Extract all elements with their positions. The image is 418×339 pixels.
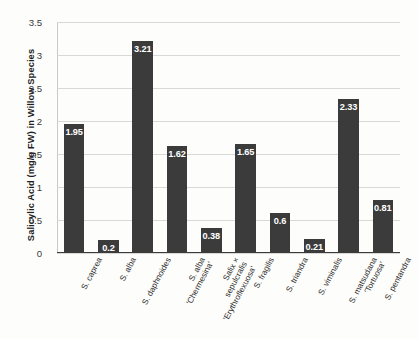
plot-area: 1.950.23.211.620.381.650.60.212.330.81: [57, 22, 400, 253]
bar-value-label: 1.65: [237, 147, 254, 157]
x-axis-category-labels: S. capreaS. albaS. daphnoidesS. alba 'Ch…: [57, 256, 400, 339]
y-axis-tick-label: 2: [37, 116, 42, 127]
gridline: [57, 88, 400, 89]
y-axis-tick-label: 3.5: [29, 17, 42, 28]
y-axis-tick-labels: 00.511.522.533.5: [0, 22, 48, 253]
bar-value-label: 0.2: [102, 243, 114, 253]
y-axis-tick-label: 0: [37, 248, 42, 259]
bar-value-label: 0.38: [203, 231, 220, 241]
gridline: [57, 55, 400, 56]
bar: 1.62: [167, 146, 188, 253]
y-axis-tick-label: 1: [37, 182, 42, 193]
bar: 0.81: [373, 200, 394, 253]
y-axis-tick-label: 0.5: [29, 215, 42, 226]
bar: 1.65: [235, 144, 256, 253]
bar: 2.33: [338, 99, 359, 253]
gridline: [57, 253, 400, 254]
bar: 1.95: [64, 124, 85, 253]
bar: 0.38: [201, 228, 222, 253]
bar-value-label: 0.21: [305, 242, 322, 252]
gridline: [57, 22, 400, 23]
bar-value-label: 2.33: [340, 102, 357, 112]
bar-value-label: 0.81: [374, 203, 391, 213]
bar: 0.6: [270, 213, 291, 253]
y-axis-tick-label: 2.5: [29, 83, 42, 94]
bar-chart: Salicylic Acid (mg/g FW) in Willow Speci…: [0, 0, 418, 339]
bar-value-label: 1.95: [65, 127, 82, 137]
y-axis-line: [57, 22, 58, 253]
bar-value-label: 0.6: [274, 216, 286, 226]
bar-value-label: 1.62: [168, 149, 185, 159]
bar: 0.21: [304, 239, 325, 253]
y-axis-tick-label: 1.5: [29, 149, 42, 160]
bar: 0.2: [98, 240, 119, 253]
y-axis-tick-label: 3: [37, 50, 42, 61]
bar: 3.21: [132, 41, 153, 253]
bar-value-label: 3.21: [134, 44, 151, 54]
